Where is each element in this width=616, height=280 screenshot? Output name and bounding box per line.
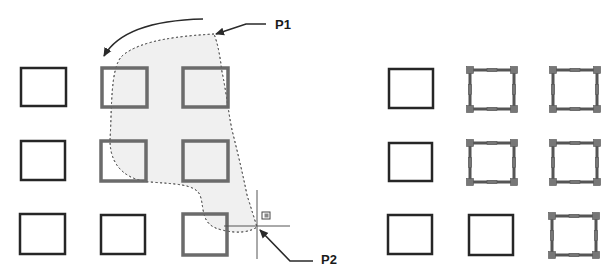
result-object-r1c1[interactable]	[389, 69, 433, 108]
midpoint-grip-icon[interactable]	[469, 85, 472, 95]
result-object-r3c1[interactable]	[388, 215, 432, 254]
p1-leader-arrow	[216, 24, 266, 34]
midpoint-grip-icon[interactable]	[487, 142, 497, 145]
grip-icon[interactable]	[511, 67, 518, 74]
grip-icon[interactable]	[549, 252, 556, 259]
midpoint-grip-icon[interactable]	[513, 158, 516, 168]
midpoint-grip-icon[interactable]	[487, 181, 497, 184]
right-object-grid	[388, 69, 513, 255]
grip-icon[interactable]	[594, 67, 601, 74]
midpoint-grip-icon[interactable]	[570, 181, 580, 184]
selected-object-r2c3[interactable]	[550, 140, 601, 186]
midpoint-grip-icon[interactable]	[570, 108, 580, 111]
p2-leader-arrow	[260, 230, 313, 261]
grip-icon[interactable]	[467, 140, 474, 147]
grip-icon[interactable]	[549, 213, 556, 220]
midpoint-grip-icon[interactable]	[513, 85, 516, 95]
midpoint-grip-icon[interactable]	[595, 231, 598, 241]
grip-icon[interactable]	[511, 140, 518, 147]
midpoint-grip-icon[interactable]	[569, 254, 579, 257]
midpoint-grip-icon[interactable]	[570, 69, 580, 72]
grip-icon[interactable]	[550, 106, 557, 113]
grip-icon[interactable]	[593, 252, 600, 259]
grip-icon[interactable]	[593, 213, 600, 220]
result-object-r3c2[interactable]	[469, 215, 513, 255]
midpoint-grip-icon[interactable]	[570, 142, 580, 145]
lasso-selection-area	[110, 34, 257, 232]
lasso-cursor-badge-icon	[262, 212, 270, 219]
grip-icon[interactable]	[467, 179, 474, 186]
grip-icon[interactable]	[467, 67, 474, 74]
selected-object-r1c2[interactable]	[467, 67, 518, 113]
grip-icon[interactable]	[594, 140, 601, 147]
object-r2c1[interactable]	[21, 141, 65, 180]
midpoint-grip-icon[interactable]	[469, 158, 472, 168]
result-object-r2c1[interactable]	[389, 143, 432, 181]
object-r3c2[interactable]	[101, 215, 145, 254]
p1-label: P1	[275, 18, 291, 31]
selected-object-r1c3[interactable]	[550, 67, 601, 113]
grip-icon[interactable]	[594, 179, 601, 186]
midpoint-grip-icon[interactable]	[569, 215, 579, 218]
midpoint-grip-icon[interactable]	[552, 85, 555, 95]
selected-object-r3c3[interactable]	[549, 213, 600, 259]
grip-icon[interactable]	[594, 106, 601, 113]
midpoint-grip-icon[interactable]	[487, 108, 497, 111]
grip-icon[interactable]	[550, 140, 557, 147]
midpoint-grip-icon[interactable]	[487, 69, 497, 72]
grip-icon[interactable]	[511, 106, 518, 113]
diagram-canvas	[0, 0, 616, 280]
midpoint-grip-icon[interactable]	[596, 158, 599, 168]
grip-icon[interactable]	[467, 106, 474, 113]
midpoint-grip-icon[interactable]	[552, 158, 555, 168]
grip-icon[interactable]	[550, 179, 557, 186]
midpoint-grip-icon[interactable]	[596, 85, 599, 95]
object-r3c1[interactable]	[20, 214, 65, 254]
object-r1c1[interactable]	[21, 68, 66, 106]
p2-label: P2	[321, 253, 337, 266]
grip-icon[interactable]	[511, 179, 518, 186]
grip-icon[interactable]	[550, 67, 557, 74]
selected-object-r2c2[interactable]	[467, 140, 518, 186]
midpoint-grip-icon[interactable]	[551, 231, 554, 241]
